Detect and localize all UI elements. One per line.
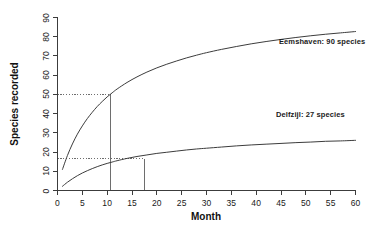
x-axis-title: Month [191, 212, 221, 222]
y-tick-label: 30 [41, 128, 50, 138]
x-tick-label: 5 [80, 199, 85, 208]
x-tick-label: 15 [127, 199, 137, 208]
x-tick-label: 45 [276, 199, 286, 208]
chart-reference-lines [58, 94, 145, 190]
x-tick-label: 25 [177, 199, 187, 208]
y-tick-label: 80 [41, 32, 50, 42]
y-tick-label: 20 [41, 147, 50, 157]
y-tick-label: 70 [41, 51, 50, 61]
y-tick-label: 40 [41, 109, 50, 119]
x-tick-label: 40 [251, 199, 261, 208]
x-tick-label: 35 [227, 199, 237, 208]
x-tick-label: 0 [55, 199, 60, 208]
x-tick-label: 10 [102, 199, 112, 208]
series-annotation-delfzijl: Delfzijl: 27 species [276, 111, 345, 119]
x-tick-label: 30 [202, 199, 212, 208]
series-line-delfzijl [62, 140, 355, 186]
y-tick-label: 60 [41, 70, 50, 80]
x-tick-label: 50 [301, 199, 311, 208]
chart-series-lines [62, 32, 355, 187]
x-tick-label: 60 [351, 199, 361, 208]
x-tick-label: 20 [152, 199, 162, 208]
species-accumulation-chart: 051015202530354045505560 010203040506070… [0, 0, 373, 232]
y-tick-label: 0 [41, 188, 50, 193]
y-tick-label: 50 [41, 90, 50, 100]
y-axis-title: Species recorded [10, 62, 20, 145]
y-tick-label: 90 [41, 13, 50, 23]
series-annotation-eemshaven: Eemshaven: 90 species [279, 38, 365, 46]
y-tick-label: 10 [41, 166, 50, 176]
series-line-eemshaven [62, 32, 355, 170]
x-tick-label: 55 [326, 199, 336, 208]
